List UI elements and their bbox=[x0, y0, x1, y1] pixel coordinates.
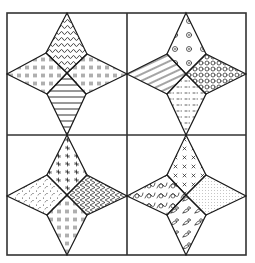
block-bottom-right bbox=[127, 135, 246, 255]
quilt-diagram bbox=[0, 0, 255, 263]
block-top-right bbox=[127, 13, 246, 135]
block-bottom-left bbox=[7, 135, 127, 255]
block-top-left bbox=[7, 13, 127, 135]
